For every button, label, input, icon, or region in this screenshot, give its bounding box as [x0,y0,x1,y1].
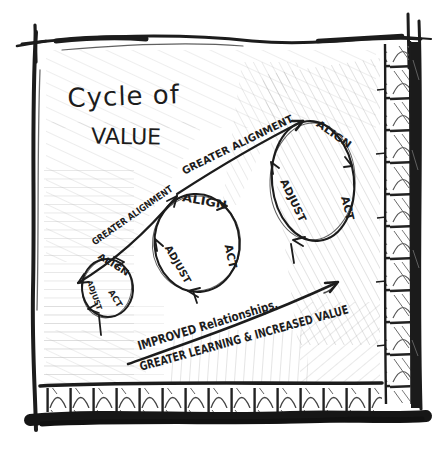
bottom-arcade-border [30,383,426,424]
frame-left-line [33,32,36,430]
hatch-bottom-left [46,330,146,384]
title-line-1: Cycle of [67,79,180,113]
ladder-cells [386,46,411,403]
arcade-cells [44,388,382,412]
sketch-canvas: Cycle of VALUE GREATER ALIGNMENT GREATER… [0,0,447,456]
ladder-dark-edge [411,42,421,408]
sketch-page: Cycle of VALUE GREATER ALIGNMENT GREATER… [0,0,447,456]
title-line-2: VALUE [91,123,161,149]
ladder-rail-left [385,44,386,404]
